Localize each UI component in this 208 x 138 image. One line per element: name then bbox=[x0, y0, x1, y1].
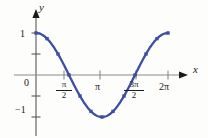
x-tick-label-2pi: 2π bbox=[159, 82, 169, 92]
x-tick-label-pi-over-2: π 2 bbox=[56, 80, 72, 101]
x-axis bbox=[14, 71, 188, 78]
data-point-marker bbox=[45, 37, 48, 40]
cosine-graph-figure: y x 1 0 −1 π 2 π 3π 2 2π bbox=[0, 0, 208, 138]
fraction-numerator: 3π bbox=[124, 80, 144, 89]
x-axis-label: x bbox=[193, 64, 198, 75]
x-tick-label-pi: π bbox=[95, 82, 100, 92]
data-point-marker bbox=[166, 31, 169, 34]
y-tick-label-neg1: −1 bbox=[15, 105, 26, 115]
data-point-marker bbox=[144, 52, 147, 55]
data-point-marker bbox=[155, 37, 158, 40]
data-point-marker bbox=[100, 115, 103, 118]
fraction-numerator: π bbox=[56, 80, 72, 89]
y-tick-label-0: 0 bbox=[24, 78, 29, 88]
data-point-marker bbox=[67, 73, 70, 76]
plot-canvas bbox=[0, 0, 208, 138]
data-point-marker bbox=[34, 31, 37, 34]
y-axis-label: y bbox=[39, 2, 44, 13]
fraction-denominator: 2 bbox=[56, 91, 72, 100]
data-point-marker bbox=[133, 73, 136, 76]
data-point-marker bbox=[89, 110, 92, 113]
data-point-marker bbox=[78, 94, 81, 97]
fraction-denominator: 2 bbox=[124, 91, 144, 100]
x-tick-label-3pi-over-2: 3π 2 bbox=[124, 80, 144, 101]
y-tick-label-1: 1 bbox=[20, 29, 25, 39]
data-point-marker bbox=[111, 110, 114, 113]
x-axis-arrow-icon bbox=[179, 71, 188, 78]
data-point-marker bbox=[56, 52, 59, 55]
